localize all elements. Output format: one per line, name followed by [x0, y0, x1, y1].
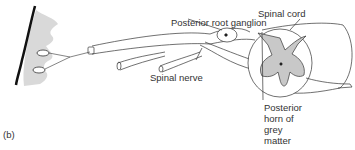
skin-section: [16, 6, 90, 86]
label-posterior-horn-2: horn of: [264, 114, 294, 124]
label-posterior-horn-1: Posterior: [264, 103, 302, 113]
label-posterior-horn-3: grey: [264, 125, 282, 135]
label-spinal-nerve: Spinal nerve: [150, 73, 203, 83]
label-posterior-horn-4: matter: [264, 136, 291, 146]
panel-label: (b): [3, 130, 15, 140]
label-spinal-cord: Spinal cord: [258, 9, 306, 19]
spinal-cord: [248, 19, 352, 100]
label-posterior-root-ganglion: Posterior root ganglion: [171, 18, 267, 28]
